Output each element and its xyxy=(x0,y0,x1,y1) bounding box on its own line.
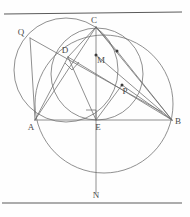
segment-D-E xyxy=(68,57,96,120)
vertex-dot-X xyxy=(116,50,119,53)
vertex-label-N: N xyxy=(93,190,100,200)
vertex-label-E: E xyxy=(95,122,101,132)
vertex-label-Q: Q xyxy=(18,27,25,37)
circles-group xyxy=(14,18,173,173)
segments-group xyxy=(30,27,172,193)
vertex-label-C: C xyxy=(91,15,97,25)
right-angle-at-E xyxy=(86,110,96,120)
segment-C-D xyxy=(68,27,96,57)
top-rule xyxy=(4,12,182,14)
segment-Q-A xyxy=(30,38,35,120)
geometry-canvas: Q C D M P A E B N xyxy=(0,0,190,217)
vertex-label-B: B xyxy=(175,116,181,126)
page-rules xyxy=(2,12,182,203)
segment-P-B xyxy=(122,85,172,120)
vertex-label-D: D xyxy=(62,45,69,55)
segment-C-X xyxy=(96,27,117,51)
vertex-label-P: P xyxy=(122,86,127,96)
vertex-label-A: A xyxy=(28,122,35,132)
geometry-figure: Q C D M P A E B N xyxy=(0,0,190,217)
vertex-labels: Q C D M P A E B N xyxy=(18,15,181,200)
vertex-label-M: M xyxy=(97,55,105,65)
left-circle xyxy=(14,18,118,122)
segment-D-B xyxy=(68,57,172,120)
